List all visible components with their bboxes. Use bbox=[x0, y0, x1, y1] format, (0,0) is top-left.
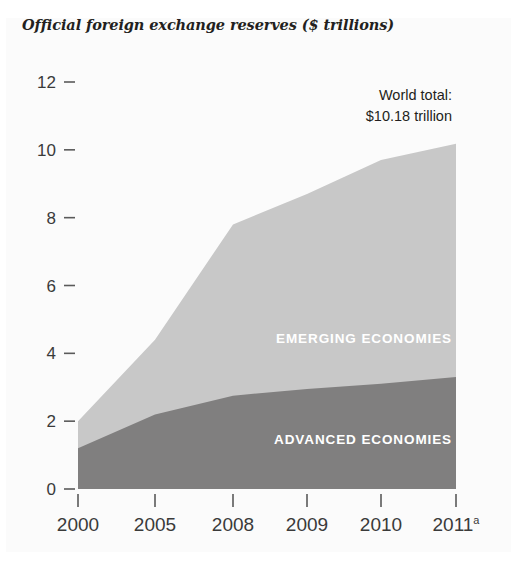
annotation-world-total-label: World total: bbox=[379, 87, 452, 103]
x-tick-label: 2005 bbox=[134, 514, 176, 535]
x-tick-label: 2009 bbox=[286, 514, 328, 535]
y-axis: 024681012 bbox=[37, 73, 75, 499]
x-tick-label: 2008 bbox=[212, 514, 254, 535]
chart-page: Official foreign exchange reserves ($ tr… bbox=[0, 0, 528, 565]
plot-area: 024681012 200020052008200920102011a EMER… bbox=[0, 0, 528, 565]
y-tick-label: 12 bbox=[37, 73, 56, 92]
series-label-emerging: EMERGING ECONOMIES bbox=[276, 331, 452, 346]
x-tick-label: 2010 bbox=[360, 514, 402, 535]
y-tick-label: 6 bbox=[47, 277, 56, 296]
y-tick-label: 4 bbox=[47, 344, 56, 363]
x-tick-label: 2000 bbox=[57, 514, 99, 535]
y-tick-label: 10 bbox=[37, 141, 56, 160]
annotation-world-total-value: $10.18 trillion bbox=[366, 108, 452, 124]
x-axis: 200020052008200920102011a bbox=[57, 494, 481, 535]
y-tick-label: 8 bbox=[47, 209, 56, 228]
area-chart-svg: 024681012 200020052008200920102011a EMER… bbox=[0, 0, 528, 565]
series-label-advanced: ADVANCED ECONOMIES bbox=[274, 432, 452, 447]
y-tick-label: 2 bbox=[47, 412, 56, 431]
y-tick-label: 0 bbox=[47, 480, 56, 499]
x-tick-label: 2011a bbox=[433, 514, 481, 535]
